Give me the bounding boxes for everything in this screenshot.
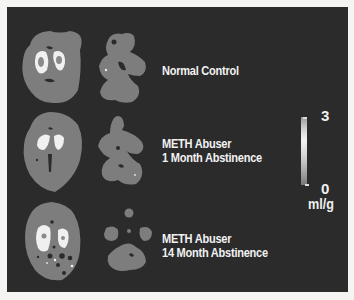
brain-slice-striatum-14-month: [25, 202, 80, 280]
row-label-normal-control: Normal Control: [162, 64, 239, 78]
colorbar-unit-label: ml/g: [308, 196, 334, 212]
colorbar-min-label: 0: [321, 180, 329, 197]
colorbar-gradient: [301, 117, 307, 185]
row-label-line2: 1 Month Abstinence: [162, 151, 262, 165]
colorbar-max-label: 3: [321, 107, 329, 124]
scan-row-1-month-abstinence: [24, 112, 144, 192]
brain-slice-cerebellum-1-month: [98, 116, 143, 185]
row-label-line1: METH Abuser: [162, 232, 268, 246]
scan-row-14-month-abstinence: [25, 202, 152, 280]
colorbar-tick-bottom: [305, 184, 309, 186]
scan-row-normal-control: [22, 31, 145, 103]
row-label-line2: 14 Month Abstinence: [162, 246, 268, 260]
brain-slice-cerebellum-normal: [99, 33, 146, 103]
row-label-1-month: METH Abuser 1 Month Abstinence: [162, 137, 262, 165]
row-label-line1: METH Abuser: [162, 137, 262, 151]
colorbar-tick-top: [303, 117, 307, 119]
brain-slice-striatum-1-month: [24, 112, 82, 192]
row-label-line1: Normal Control: [162, 64, 239, 78]
brain-slice-striatum-normal: [22, 31, 81, 103]
row-label-14-month: METH Abuser 14 Month Abstinence: [162, 232, 268, 260]
brain-slice-cerebellum-14-month: [104, 209, 152, 272]
